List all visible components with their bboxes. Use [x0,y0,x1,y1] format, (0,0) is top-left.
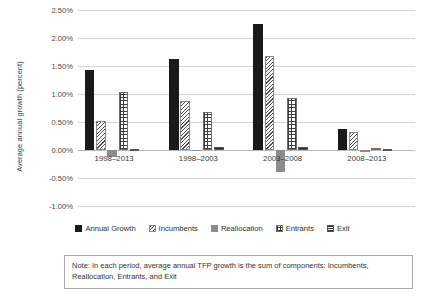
legend-label: Entrants [286,224,314,233]
legend-item-entrants[interactable]: Entrants [276,224,314,233]
legend-item-reallocation[interactable]: Reallocation [211,224,263,233]
legend-label: Reallocation [221,224,263,233]
bar-reallocation [192,150,202,151]
legend-item-incumbents[interactable]: Incumbents [149,224,198,233]
y-axis-title: Average annual growth (percent) [15,37,24,197]
bar-group [247,10,331,206]
y-axis-tick-label: -1.00% [49,202,73,211]
legend-label: Exit [337,224,350,233]
legend-item-exit[interactable]: Exit [327,224,350,233]
y-axis-tick-label: 0.00% [51,146,73,155]
legend-swatch-reallocation-icon [211,225,218,232]
bar-incumbents [349,132,359,150]
y-axis-tick-label: 1.00% [51,90,73,99]
bar-entrants [203,112,213,150]
chart-legend: Annual GrowthIncumbentsReallocationEntra… [0,224,425,233]
bar-annual-growth [169,59,179,150]
y-axis-tick-label: 2.50% [51,6,73,15]
legend-swatch-incumbents-icon [149,225,156,232]
plot-area: 2.50%2.00%1.50%1.00%0.50%0.00%-0.50%-1.0… [78,10,415,206]
x-axis-tick-label: 1998–2013 [95,154,134,163]
x-axis-tick-label: 1998–2003 [179,154,218,163]
bar-exit [130,149,140,151]
bar-annual-growth [253,24,263,150]
bar-incumbents [96,121,106,150]
bar-entrants [371,148,381,150]
y-axis-tick-label: 0.50% [51,118,73,127]
bar-annual-growth [338,129,348,150]
bar-group [331,10,415,206]
bar-annual-growth [85,70,95,150]
bar-entrants [287,98,297,150]
bar-reallocation [360,150,370,152]
y-axis-tick-label: 2.00% [51,34,73,43]
bar-exit [298,147,308,150]
bar-group [78,10,162,206]
bar-entrants [119,92,129,150]
y-axis-tick-label: -0.50% [49,174,73,183]
legend-swatch-entrants-icon [276,225,283,232]
legend-swatch-annual-growth-icon [75,225,82,232]
x-axis-tick-label: 2003–2008 [263,154,302,163]
tfp-growth-bar-chart: Average annual growth (percent) 2.50%2.0… [0,0,425,296]
bar-incumbents [180,101,190,150]
legend-swatch-exit-icon [327,225,334,232]
chart-note: Note: In each period, average annual TFP… [64,255,413,289]
bar-incumbents [265,56,275,150]
legend-label: Incumbents [159,224,198,233]
bar-group [162,10,246,206]
bar-exit [214,147,224,150]
legend-item-annual-growth[interactable]: Annual Growth [75,224,135,233]
x-axis-tick-label: 2008–2013 [347,154,386,163]
legend-label: Annual Growth [85,224,135,233]
gridline [78,206,415,207]
y-axis-tick-label: 1.50% [51,62,73,71]
bar-exit [383,149,393,151]
